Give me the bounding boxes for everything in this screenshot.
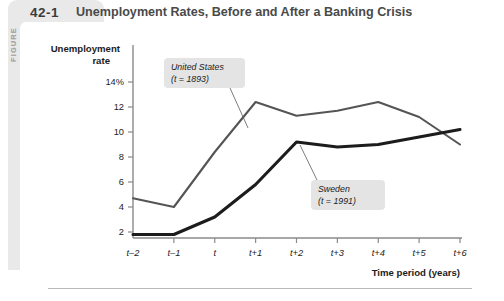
y-tick-label: 8 [119, 152, 124, 162]
x-tick-group: t–2t–1tt+1t+2t+3t+4t+5t+6 [127, 238, 468, 258]
y-tick-label: 6 [119, 177, 124, 187]
x-tick-label: t+4 [372, 248, 385, 258]
y-tick-group: 14%12108642 [105, 77, 133, 237]
x-tick-label: t+1 [249, 248, 262, 258]
x-axis-title: Time period (years) [372, 267, 460, 278]
series-group [133, 102, 460, 235]
y-tick-label: 4 [119, 202, 124, 212]
x-tick-label: t–2 [127, 248, 141, 258]
y-tick-label: 10 [114, 127, 124, 137]
x-tick-label: t+5 [413, 248, 427, 258]
sweden-annotation-line1: Sweden [318, 184, 350, 194]
sweden-leader-line [300, 145, 317, 180]
sweden-annotation-line2: (t = 1991) [318, 196, 356, 206]
y-tick-label: 2 [119, 227, 124, 237]
y-tick-label: 12 [114, 102, 124, 112]
x-tick-label: t [213, 248, 216, 258]
x-tick-label: t+2 [290, 248, 304, 258]
x-tick-label: t+6 [453, 248, 467, 258]
y-axis-title-line1: Unemployment [51, 43, 121, 54]
line-chart: Unemployment rate Time period (years) 14… [0, 0, 504, 301]
figure-container: FIGURE 42-1 Unemployment Rates, Before a… [0, 0, 504, 301]
x-tick-label: t–1 [167, 248, 180, 258]
series-line-united-states [133, 102, 460, 207]
y-tick-label: 14% [105, 77, 124, 87]
series-line-sweden [133, 130, 460, 235]
us-annotation-line2: (t = 1893) [171, 74, 209, 84]
us-annotation-line1: United States [171, 62, 224, 72]
y-axis-title-line2: rate [92, 55, 110, 66]
x-tick-label: t+3 [331, 248, 345, 258]
annotation-united-states: United States (t = 1893) [164, 58, 245, 88]
annotation-sweden: Sweden (t = 1991) [311, 180, 385, 210]
footer-divider [48, 288, 472, 289]
